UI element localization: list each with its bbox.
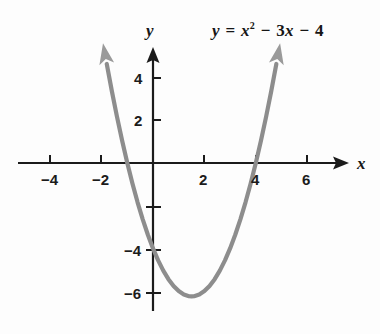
equation-op1: − — [260, 21, 272, 40]
x-axis-label: x — [357, 155, 366, 172]
x-axis-ticks — [50, 155, 307, 163]
equation-annotation: y = x2 − 3x − 4 — [212, 21, 324, 39]
equation-op2: − — [298, 21, 310, 40]
y-tick-label-neg4: −4 — [124, 243, 141, 258]
equation-term3: 4 — [315, 21, 324, 40]
x-tick-label-neg2: −2 — [92, 172, 109, 187]
equation-term1-exponent: 2 — [250, 20, 255, 31]
equation-term2-var: x — [285, 21, 294, 40]
equation-equals: = — [224, 21, 236, 40]
y-tick-label-neg6: −6 — [124, 286, 141, 301]
coordinate-plane — [0, 0, 380, 334]
graph-figure: −4 −2 2 4 6 4 2 −4 −6 y x y = x2 − 3x − … — [0, 0, 380, 334]
x-tick-label-6: 6 — [302, 172, 310, 187]
equation-term1-var: x — [241, 21, 250, 40]
y-tick-label-4: 4 — [134, 71, 142, 86]
x-tick-label-4: 4 — [251, 172, 259, 187]
equation-lhs: y — [212, 21, 220, 40]
y-tick-label-2: 2 — [134, 113, 142, 128]
x-tick-label-neg4: −4 — [41, 172, 58, 187]
equation-term2-coefficient: 3 — [276, 21, 285, 40]
parabola-curve-precise — [107, 64, 279, 158]
y-axis-label: y — [146, 22, 154, 39]
x-tick-label-2: 2 — [199, 172, 207, 187]
